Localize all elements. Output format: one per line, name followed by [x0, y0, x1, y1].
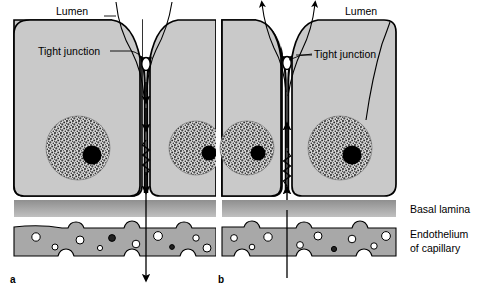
- tight-junction-label-b: Tight junction: [314, 48, 376, 60]
- panel-letter-a: a: [10, 274, 16, 285]
- tight-junction-label-a: Tight junction: [38, 45, 100, 57]
- panel-a-graphics: [14, 2, 223, 278]
- basal-lamina-a: [14, 200, 216, 217]
- nucleolus-right-b: [343, 146, 362, 165]
- basal-lamina-b: [222, 200, 396, 217]
- endothelium-label-line2: of capillary: [410, 242, 461, 254]
- endothelium-label-line1: Endothelium: [410, 228, 469, 240]
- epithelial-transport-figure: Lumen Tight junction a: [0, 0, 503, 293]
- nucleus-right-a: [169, 121, 223, 175]
- nucleus-right-b: [308, 116, 372, 180]
- nucleolus-left-a: [83, 146, 102, 165]
- panel-b-graphics: [220, 4, 396, 278]
- panel-letter-b: b: [218, 274, 224, 285]
- lumen-label-a: Lumen: [56, 5, 88, 17]
- nucleus-left-b: [220, 121, 274, 175]
- nucleus-left-a: [46, 116, 110, 180]
- nucleolus-right-a: [202, 146, 217, 161]
- lumen-label-b: Lumen: [345, 5, 377, 17]
- basal-lamina-label: Basal lamina: [410, 203, 470, 215]
- nucleolus-left-b: [251, 146, 266, 161]
